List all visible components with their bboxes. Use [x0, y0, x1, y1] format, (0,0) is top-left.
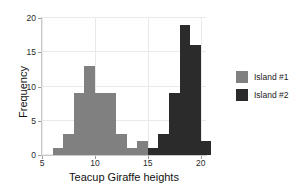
legend: Island #1 Island #2: [236, 71, 289, 101]
legend-label-island-2: Island #2: [254, 91, 289, 100]
legend-label-island-1: Island #1: [254, 73, 289, 82]
bar: [74, 93, 85, 155]
gridline-horizontal: [42, 17, 206, 18]
y-axis-line: [41, 17, 42, 156]
bar: [190, 45, 201, 155]
y-tick-label: 0: [31, 151, 36, 160]
plot-area: [42, 18, 206, 155]
bar: [158, 134, 169, 155]
y-tick-label: 15: [27, 48, 36, 57]
bar: [84, 66, 95, 155]
gridline-vertical: [42, 18, 43, 155]
bar: [180, 25, 191, 155]
x-axis-line: [41, 155, 207, 156]
y-axis-title: Frequency: [17, 42, 29, 142]
x-tick-label: 15: [143, 159, 152, 168]
bar: [169, 93, 180, 155]
y-tick-label: 10: [27, 83, 36, 92]
legend-item-island-2: Island #2: [236, 89, 289, 101]
y-tick-label: 5: [31, 117, 36, 126]
x-tick-label: 5: [40, 159, 45, 168]
bar: [95, 93, 106, 155]
y-tick-label: 20: [27, 14, 36, 23]
bar: [201, 141, 212, 155]
bar: [63, 134, 74, 155]
bar: [116, 134, 127, 155]
x-axis-title: Teacup Giraffe heights: [42, 171, 206, 183]
gridline-vertical: [148, 18, 149, 155]
bar: [53, 148, 64, 155]
x-tick-label: 10: [90, 159, 99, 168]
legend-swatch-island-2: [236, 89, 248, 101]
x-tick-label: 20: [196, 159, 205, 168]
bar: [105, 93, 116, 155]
bar: [137, 141, 148, 155]
histogram-figure: Frequency 05101520 5101520 Teacup Giraff…: [0, 0, 304, 193]
bar: [127, 148, 138, 155]
gridline-vertical: [201, 18, 202, 155]
bar: [148, 148, 159, 155]
legend-swatch-island-1: [236, 71, 248, 83]
legend-item-island-1: Island #1: [236, 71, 289, 83]
